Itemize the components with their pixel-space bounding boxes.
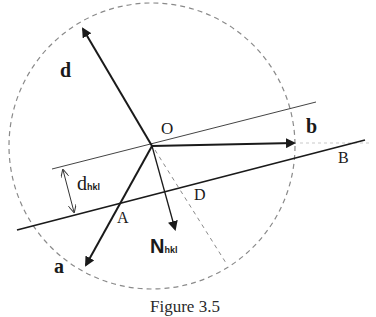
- vector-d-arrow: [83, 29, 152, 146]
- spacing-main: d: [77, 172, 87, 194]
- normal-main: N: [150, 235, 164, 257]
- label-normal-Nhkl: Nhkl: [150, 236, 177, 256]
- spacing-subscript: hkl: [87, 182, 100, 192]
- figure-caption: Figure 3.5: [150, 297, 220, 317]
- vector-b-arrow: [152, 143, 294, 146]
- vector-a-arrow: [86, 146, 152, 265]
- label-vector-d: d: [60, 60, 71, 80]
- label-point-B: B: [338, 150, 349, 166]
- label-vector-b: b: [306, 116, 317, 136]
- upper-plane-line: [52, 102, 316, 169]
- label-point-A: A: [117, 210, 129, 226]
- label-point-D: D: [194, 187, 206, 203]
- normal-subscript: hkl: [164, 245, 177, 255]
- label-spacing-dhkl: dhkl: [77, 173, 100, 193]
- label-origin: O: [161, 120, 173, 137]
- lower-plane-line: [17, 140, 365, 230]
- spacing-double-arrow: [63, 170, 74, 212]
- normal-vector-arrow: [152, 146, 175, 229]
- label-vector-a: a: [54, 256, 64, 276]
